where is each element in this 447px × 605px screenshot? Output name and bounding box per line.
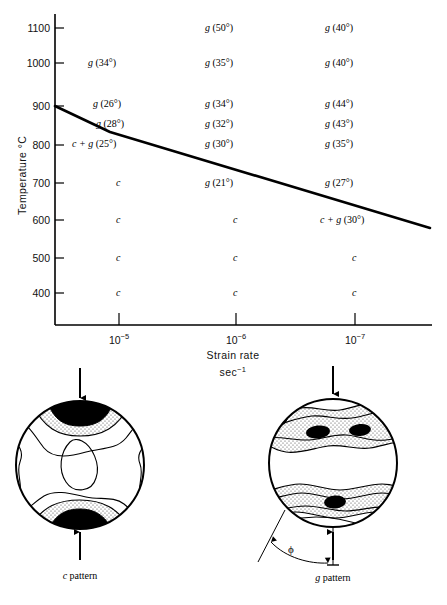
x-tick-label-1e-7: 10−7 — [335, 332, 375, 346]
cell-800-left: c + g (25°) — [72, 138, 116, 149]
cell-symbol: g — [93, 98, 98, 109]
cell-angle: (43°) — [333, 118, 354, 129]
cell-900-left: g (26°) — [93, 98, 121, 109]
cell-850-left: g (28°) — [96, 118, 124, 129]
cell-symbol: c — [116, 177, 120, 188]
cell-symbol: g — [205, 138, 210, 149]
cell-400-mid: c — [233, 287, 237, 298]
cell-symbol: g — [205, 118, 210, 129]
phase-diagram: Temperature °C 1100 1000 900 800 700 600… — [0, 0, 447, 380]
cell-500-mid: c — [233, 252, 237, 263]
cell-symbol: c — [116, 287, 120, 298]
cell-angle: (40°) — [333, 57, 354, 68]
cell-500-left: c — [116, 252, 120, 263]
figure-root: Temperature °C 1100 1000 900 800 700 600… — [0, 0, 447, 605]
cell-angle: (40°) — [333, 22, 354, 33]
cell-700-right: g (27°) — [325, 177, 353, 188]
phi-radial-line-left — [258, 510, 285, 562]
y-tick-label-1000: 1000 — [10, 57, 50, 69]
cell-symbol: g — [205, 22, 210, 33]
cell-850-right: g (43°) — [325, 118, 353, 129]
cell-symbol: g — [205, 177, 210, 188]
cell-angle: (35°) — [213, 57, 234, 68]
cell-700-left: c — [116, 177, 120, 188]
phi-angle-label: ϕ — [283, 543, 299, 555]
cell-angle: (30°) — [213, 138, 234, 149]
y-tick-label-600: 600 — [10, 214, 50, 226]
cell-angle: (26°) — [101, 98, 122, 109]
cell-angle: (32°) — [213, 118, 234, 129]
cell-symbol: g — [325, 138, 330, 149]
x-tick-exp-3: −7 — [357, 332, 366, 341]
cell-symbol: c — [352, 287, 356, 298]
cell-symbol: c — [233, 252, 237, 263]
y-tick-label-900: 900 — [10, 100, 50, 112]
cell-700-mid: g (21°) — [205, 177, 233, 188]
cell-900-mid: g (34°) — [205, 98, 233, 109]
cell-symbol: g — [88, 57, 93, 68]
cell-1000-right: g (40°) — [325, 57, 353, 68]
x-tick-marks — [119, 313, 355, 325]
x-tick-base-2: 10 — [226, 334, 238, 346]
cell-600-mid: c — [233, 214, 237, 225]
cell-symbol: c + g — [320, 214, 341, 225]
cell-angle: (44°) — [333, 98, 354, 109]
cell-850-mid: g (32°) — [205, 118, 233, 129]
y-tick-label-700: 700 — [10, 177, 50, 189]
x-tick-label-1e-6: 10−6 — [216, 332, 256, 346]
left-pole-caption: c pattern — [40, 570, 120, 581]
cell-angle: (27°) — [333, 177, 354, 188]
cell-symbol: g — [325, 57, 330, 68]
x-tick-label-1e-5: 10−5 — [99, 332, 139, 346]
cell-symbol: g — [325, 177, 330, 188]
right-pole-caption-text: pattern — [323, 572, 351, 583]
right-pole-contents — [262, 393, 408, 538]
cell-symbol: g — [205, 98, 210, 109]
cell-symbol: c + g — [72, 138, 93, 149]
y-tick-label-500: 500 — [10, 252, 50, 264]
y-tick-marks — [55, 28, 64, 293]
cell-symbol: g — [325, 118, 330, 129]
cell-symbol: c — [233, 214, 237, 225]
phi-angle-arc-arrow — [271, 542, 328, 563]
cell-symbol: c — [233, 287, 237, 298]
cell-angle: (34°) — [96, 57, 117, 68]
cell-symbol: g — [205, 57, 210, 68]
cell-angle: (25°) — [96, 138, 117, 149]
cell-angle: (30°) — [344, 214, 365, 225]
cell-symbol: c — [116, 252, 120, 263]
x-tick-exp-1: −5 — [121, 332, 130, 341]
cell-1000-left: g (34°) — [88, 57, 116, 68]
cell-symbol: g — [325, 98, 330, 109]
cell-symbol: c — [116, 214, 120, 225]
x-tick-exp-2: −6 — [238, 332, 247, 341]
cell-800-right: g (35°) — [325, 138, 353, 149]
cell-angle: (50°) — [213, 22, 234, 33]
cell-symbol: g — [96, 118, 101, 129]
cell-angle: (28°) — [104, 118, 125, 129]
y-tick-label-400: 400 — [10, 287, 50, 299]
x-tick-base-3: 10 — [345, 334, 357, 346]
cell-1100-mid: g (50°) — [205, 22, 233, 33]
cell-900-right: g (44°) — [325, 98, 353, 109]
cell-angle: (35°) — [333, 138, 354, 149]
cell-600-left: c — [116, 214, 120, 225]
cell-400-right: c — [352, 287, 356, 298]
cell-1000-mid: g (35°) — [205, 57, 233, 68]
y-tick-label-1100: 1100 — [10, 22, 50, 34]
right-pole-figure — [258, 366, 408, 565]
cell-angle: (34°) — [213, 98, 234, 109]
left-pole-contents — [4, 395, 156, 540]
right-pole-caption: g pattern — [293, 572, 373, 583]
right-pole-caption-symbol: g — [315, 572, 320, 583]
cell-400-left: c — [116, 287, 120, 298]
cell-symbol: g — [325, 22, 330, 33]
left-pole-figure — [4, 368, 156, 560]
cell-500-right: c — [352, 252, 356, 263]
pole-figures-panel: c pattern g pattern ϕ — [0, 360, 447, 605]
x-tick-base-1: 10 — [109, 334, 121, 346]
pole-figures-svg — [0, 360, 447, 605]
cell-600-right: c + g (30°) — [320, 214, 364, 225]
left-pole-caption-text: pattern — [70, 570, 98, 581]
y-tick-label-800: 800 — [10, 139, 50, 151]
